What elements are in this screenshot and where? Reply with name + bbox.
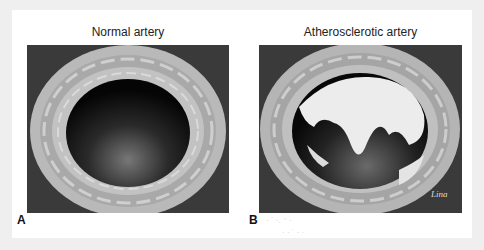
faint-text-2: · · ˙ · · — [282, 228, 304, 237]
figure-card: Normal artery A Atherosclerotic artery — [12, 10, 472, 238]
panel-b-title: Atherosclerotic artery — [259, 25, 462, 39]
faint-text-1: · ˙ ·. ⁻ · — [266, 216, 292, 225]
normal-artery-illustration — [27, 45, 229, 213]
panel-b-label: B — [249, 213, 258, 227]
panel-a-label: A — [17, 213, 26, 227]
panel-a-title: Normal artery — [27, 25, 229, 39]
atherosclerotic-artery-illustration: Lina — [259, 45, 462, 213]
svg-text:Lina: Lina — [430, 189, 448, 199]
